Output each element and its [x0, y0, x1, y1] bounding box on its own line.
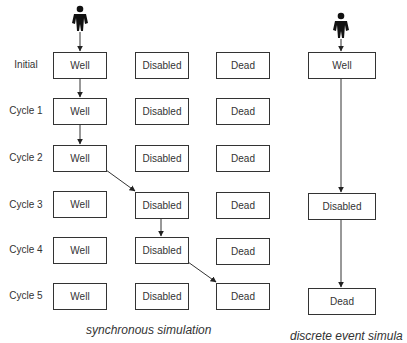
state-box-dead: Dead [216, 283, 270, 310]
state-box-well: Well [53, 237, 107, 264]
state-box-well: Well [308, 52, 376, 79]
state-box-well: Well [53, 98, 107, 125]
state-box-dead: Dead [308, 288, 376, 315]
caption-discrete-event: discrete event simula [290, 329, 403, 343]
person-icon-right [333, 13, 349, 38]
row-label-initial: Initial [2, 59, 50, 70]
state-box-well: Well [53, 283, 107, 310]
state-box-dead: Dead [216, 145, 270, 172]
state-box-disabled: Disabled [135, 98, 189, 125]
row-label-cycle-5: Cycle 5 [2, 290, 50, 301]
state-box-dead: Dead [216, 52, 270, 79]
state-box-well: Well [53, 145, 107, 172]
state-box-well: Well [53, 52, 107, 79]
person-icon-left [72, 6, 88, 31]
state-box-disabled: Disabled [135, 237, 189, 264]
state-box-dead: Dead [216, 238, 270, 265]
state-box-disabled: Disabled [308, 193, 376, 220]
caption-synchronous: synchronous simulation [86, 323, 211, 337]
row-label-cycle-2: Cycle 2 [2, 152, 50, 163]
state-box-disabled: Disabled [135, 283, 189, 310]
state-box-well: Well [53, 191, 107, 218]
state-box-disabled: Disabled [135, 192, 189, 219]
state-box-dead: Dead [216, 98, 270, 125]
state-box-dead: Dead [216, 192, 270, 219]
state-box-disabled: Disabled [135, 145, 189, 172]
row-label-cycle-3: Cycle 3 [2, 199, 50, 210]
row-label-cycle-4: Cycle 4 [2, 244, 50, 255]
state-box-disabled: Disabled [135, 52, 189, 79]
row-label-cycle-1: Cycle 1 [2, 105, 50, 116]
